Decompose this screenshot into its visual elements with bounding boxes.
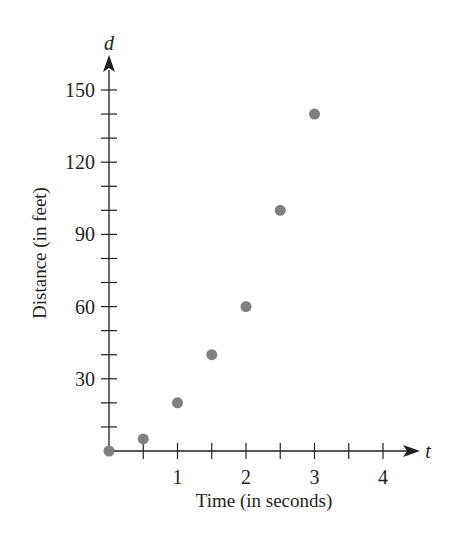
x-tick-label: 3: [310, 466, 320, 488]
y-axis-arrow-icon: [103, 55, 115, 72]
axis-labels: d t Time (in seconds) Distance (in feet): [29, 32, 431, 512]
data-point: [309, 109, 320, 120]
data-point: [241, 301, 252, 312]
y-tick-label: 30: [75, 368, 95, 390]
data-point: [172, 397, 183, 408]
x-axis-title: Time (in seconds): [196, 490, 333, 512]
y-tick-label: 60: [75, 296, 95, 318]
y-tick-label: 120: [65, 151, 95, 173]
data-point: [275, 205, 286, 216]
y-axis-variable: d: [104, 32, 115, 54]
data-point: [206, 349, 217, 360]
data-point: [104, 446, 115, 457]
x-tick-label: 1: [173, 466, 183, 488]
scatter-chart: 306090120150 1234 d t Time (in seconds) …: [0, 0, 458, 540]
x-axis-ticks: 1234: [143, 443, 388, 488]
x-tick-label: 4: [378, 466, 388, 488]
x-tick-label: 2: [241, 466, 251, 488]
axes: [103, 55, 420, 457]
y-tick-label: 90: [75, 223, 95, 245]
data-points: [104, 109, 321, 457]
x-axis-variable: t: [425, 440, 431, 462]
y-tick-label: 150: [65, 79, 95, 101]
data-point: [138, 433, 149, 444]
chart-canvas: 306090120150 1234 d t Time (in seconds) …: [0, 0, 458, 540]
y-axis-title: Distance (in feet): [29, 187, 51, 319]
